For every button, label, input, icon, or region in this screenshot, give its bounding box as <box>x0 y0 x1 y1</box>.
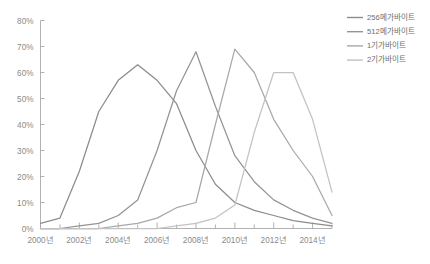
y-tick-label: 40% <box>17 121 33 130</box>
legend-item[interactable]: 1기가바이트 <box>347 40 406 50</box>
y-axis-tick-labels: 0%10%20%30%40%50%60%70%80% <box>17 17 33 234</box>
y-tick-label: 30% <box>17 147 33 156</box>
line-chart: 0%10%20%30%40%50%60%70%80% 2000년2002년200… <box>0 0 430 264</box>
legend-item[interactable]: 512메가바이트 <box>347 26 415 36</box>
y-tick-label: 0% <box>22 225 34 234</box>
series-line-0 <box>41 65 333 226</box>
y-tick-label: 70% <box>17 43 33 52</box>
legend-label: 512메가바이트 <box>367 26 415 36</box>
x-tick-label: 2006년 <box>144 235 170 245</box>
data-series-group <box>41 49 333 228</box>
y-tick-label: 10% <box>17 199 33 208</box>
x-axis-tick-labels: 2000년2002년2004년2006년2008년2010년2012년2014년 <box>27 235 325 245</box>
x-tick-label: 2014년 <box>299 235 325 245</box>
legend-label: 2기가바이트 <box>367 54 406 64</box>
series-line-1 <box>41 52 333 229</box>
legend-label: 1기가바이트 <box>367 40 406 50</box>
legend-label: 256메가바이트 <box>367 12 415 22</box>
x-tick-label: 2008년 <box>183 235 209 245</box>
y-tick-label: 80% <box>17 17 33 26</box>
legend-item[interactable]: 2기가바이트 <box>347 54 406 64</box>
y-axis-ticks <box>41 21 45 229</box>
chart-container: 0%10%20%30%40%50%60%70%80% 2000년2002년200… <box>0 0 430 264</box>
y-axis: 0%10%20%30%40%50%60%70%80% <box>17 17 44 234</box>
x-tick-label: 2004년 <box>105 235 131 245</box>
y-tick-label: 20% <box>17 173 33 182</box>
series-line-2 <box>41 49 333 228</box>
x-tick-label: 2002년 <box>66 235 92 245</box>
legend-item[interactable]: 256메가바이트 <box>347 12 415 22</box>
y-tick-label: 60% <box>17 69 33 78</box>
chart-legend: 256메가바이트512메가바이트1기가바이트2기가바이트 <box>347 12 415 65</box>
x-tick-label: 2010년 <box>222 235 248 245</box>
y-tick-label: 50% <box>17 95 33 104</box>
x-tick-label: 2000년 <box>27 235 53 245</box>
x-tick-label: 2012년 <box>261 235 287 245</box>
